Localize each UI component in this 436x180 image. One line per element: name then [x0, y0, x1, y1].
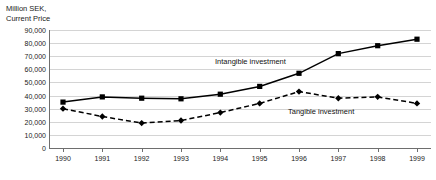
- data-point-marker: [99, 113, 105, 119]
- x-axis-tick-label: 1994: [213, 155, 229, 162]
- x-axis-tick: [102, 148, 103, 152]
- y-axis-tick-label: 90,000: [25, 27, 46, 34]
- y-axis-tick-label: 80,000: [25, 40, 46, 47]
- y-axis-tick-label: 50,000: [25, 79, 46, 86]
- x-axis-tick: [417, 148, 418, 152]
- data-point-marker: [60, 100, 65, 105]
- x-axis-tick-label: 1993: [173, 155, 189, 162]
- y-axis-tick-label: 40,000: [25, 92, 46, 99]
- data-point-marker: [100, 94, 105, 99]
- y-axis-tick-label: 0: [42, 145, 46, 152]
- series-lines: [49, 30, 431, 149]
- data-point-marker: [218, 92, 223, 97]
- x-axis-tick: [260, 148, 261, 152]
- x-axis-tick-label: 1998: [370, 155, 386, 162]
- data-point-marker: [139, 96, 144, 101]
- data-point-marker: [296, 88, 302, 94]
- data-point-marker: [257, 84, 262, 89]
- x-axis-tick-label: 1997: [331, 155, 347, 162]
- x-axis-tick-label: 1995: [252, 155, 268, 162]
- y-axis-title: Million SEK, Current Price: [6, 4, 50, 24]
- series-line: [63, 39, 417, 102]
- chart-container: Million SEK, Current Price 90,00080,0007…: [0, 0, 436, 180]
- y-axis-tick-label: 60,000: [25, 66, 46, 73]
- x-axis-tick: [181, 148, 182, 152]
- x-axis-tick: [220, 148, 221, 152]
- data-point-marker: [374, 94, 380, 100]
- data-point-marker: [60, 105, 66, 111]
- x-axis-tick: [142, 148, 143, 152]
- data-point-marker: [414, 37, 419, 42]
- data-point-marker: [178, 117, 184, 123]
- series-label-intangible: Intangible investment: [215, 57, 286, 66]
- x-axis-tick-label: 1999: [409, 155, 425, 162]
- series-line: [63, 92, 417, 124]
- data-point-marker: [375, 43, 380, 48]
- y-axis-tick-label: 30,000: [25, 105, 46, 112]
- data-point-marker: [256, 100, 262, 106]
- x-axis-tick: [63, 148, 64, 152]
- x-axis-tick-label: 1991: [95, 155, 111, 162]
- data-point-marker: [138, 120, 144, 126]
- series-label-tangible: Tangible investment: [288, 107, 354, 116]
- data-point-marker: [217, 109, 223, 115]
- y-axis-tick-labels: 90,00080,00070,00060,00050,00040,00030,0…: [0, 30, 46, 149]
- data-point-marker: [336, 51, 341, 56]
- x-axis-tick: [378, 148, 379, 152]
- x-axis-tick: [299, 148, 300, 152]
- x-axis-tick: [338, 148, 339, 152]
- data-point-marker: [335, 95, 341, 101]
- x-axis-tick-labels: 1990199119921993199419951996199719981999: [49, 148, 431, 168]
- y-axis-tick-label: 70,000: [25, 53, 46, 60]
- data-point-marker: [178, 96, 183, 101]
- x-axis-tick-label: 1990: [55, 155, 71, 162]
- x-axis-tick-label: 1992: [134, 155, 150, 162]
- data-point-marker: [296, 71, 301, 76]
- plot-area: [49, 30, 431, 148]
- data-point-marker: [414, 100, 420, 106]
- y-axis-tick-label: 20,000: [25, 118, 46, 125]
- x-axis-tick-label: 1996: [291, 155, 307, 162]
- y-axis-tick-label: 10,000: [25, 131, 46, 138]
